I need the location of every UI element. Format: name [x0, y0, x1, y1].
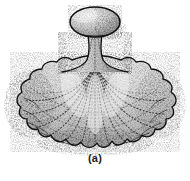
figure-panel: (a) — [0, 0, 190, 181]
apical-cap-group — [68, 5, 126, 39]
figure-caption: (a) — [0, 151, 190, 165]
apical-cap-texture — [68, 5, 126, 39]
